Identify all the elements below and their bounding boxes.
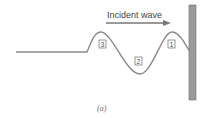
wave-line <box>16 32 190 74</box>
svg-text:2: 2 <box>137 58 141 65</box>
arrow-head-icon <box>163 20 171 26</box>
figure-caption: (a) <box>97 104 107 113</box>
marker-3: 3 <box>99 40 106 48</box>
wall <box>189 5 196 100</box>
incident-wave-label: Incident wave <box>107 10 162 20</box>
marker-2: 2 <box>135 57 142 65</box>
marker-1: 1 <box>168 40 175 48</box>
svg-text:3: 3 <box>101 41 105 48</box>
svg-text:1: 1 <box>170 41 174 48</box>
wave-diagram: Incident wave 3 2 1 (a) <box>0 0 205 118</box>
